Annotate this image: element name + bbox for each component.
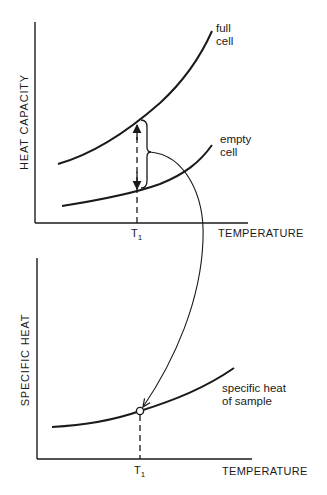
bottom-x-axis-label: TEMPERATURE — [222, 465, 308, 477]
transfer-arrow — [143, 152, 203, 407]
brace — [141, 120, 151, 188]
bottom-plot: specific heat of sample SPECIFIC HEAT TE… — [19, 258, 308, 479]
top-t1-label: T1 — [131, 227, 143, 242]
top-plot: full cell empty cell HEAT CAPACITY TEMPE… — [18, 22, 304, 242]
diagram-canvas: full cell empty cell HEAT CAPACITY TEMPE… — [0, 0, 327, 495]
full-cell-label: full cell — [216, 22, 234, 47]
empty-cell-label: empty cell — [220, 133, 255, 158]
full-cell-curve — [58, 31, 212, 164]
specific-heat-curve — [52, 368, 234, 427]
bottom-y-axis-label: SPECIFIC HEAT — [19, 314, 31, 407]
specific-heat-label: specific heat of sample — [222, 382, 289, 407]
sample-point-marker — [136, 407, 143, 414]
bottom-t1-label: T1 — [134, 464, 146, 479]
top-y-axis-label: HEAT CAPACITY — [18, 74, 30, 170]
top-x-axis-label: TEMPERATURE — [218, 227, 304, 239]
